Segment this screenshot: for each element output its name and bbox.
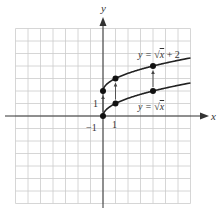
data-point <box>100 88 106 94</box>
data-point <box>113 101 119 107</box>
arrowhead-icon <box>101 95 105 99</box>
curve-labels: y = √x + 2 y = √x <box>137 49 180 112</box>
data-point <box>150 88 156 94</box>
data-point <box>150 63 156 69</box>
y-axis-label: y <box>100 2 106 14</box>
x-tick-label-1: 1 <box>112 119 117 130</box>
tick-label-neg-1: −1 <box>86 122 97 133</box>
y-tick-label-1: 1 <box>93 98 98 109</box>
label-sqrt-x-plus-2: y = √x + 2 <box>137 49 180 60</box>
data-point <box>100 113 106 119</box>
axes: x y 1 1 −1 <box>5 2 216 208</box>
data-point <box>113 76 119 82</box>
x-axis-arrow-icon <box>200 113 209 120</box>
label-sqrt-x: y = √x <box>137 101 165 112</box>
x-axis-label: x <box>210 110 216 122</box>
y-axis-arrow-icon <box>100 17 107 26</box>
arrowhead-icon <box>114 83 118 87</box>
arrowhead-icon <box>151 70 155 74</box>
graph: x y 1 1 −1 y = √x + 2 y = √x <box>0 0 221 213</box>
